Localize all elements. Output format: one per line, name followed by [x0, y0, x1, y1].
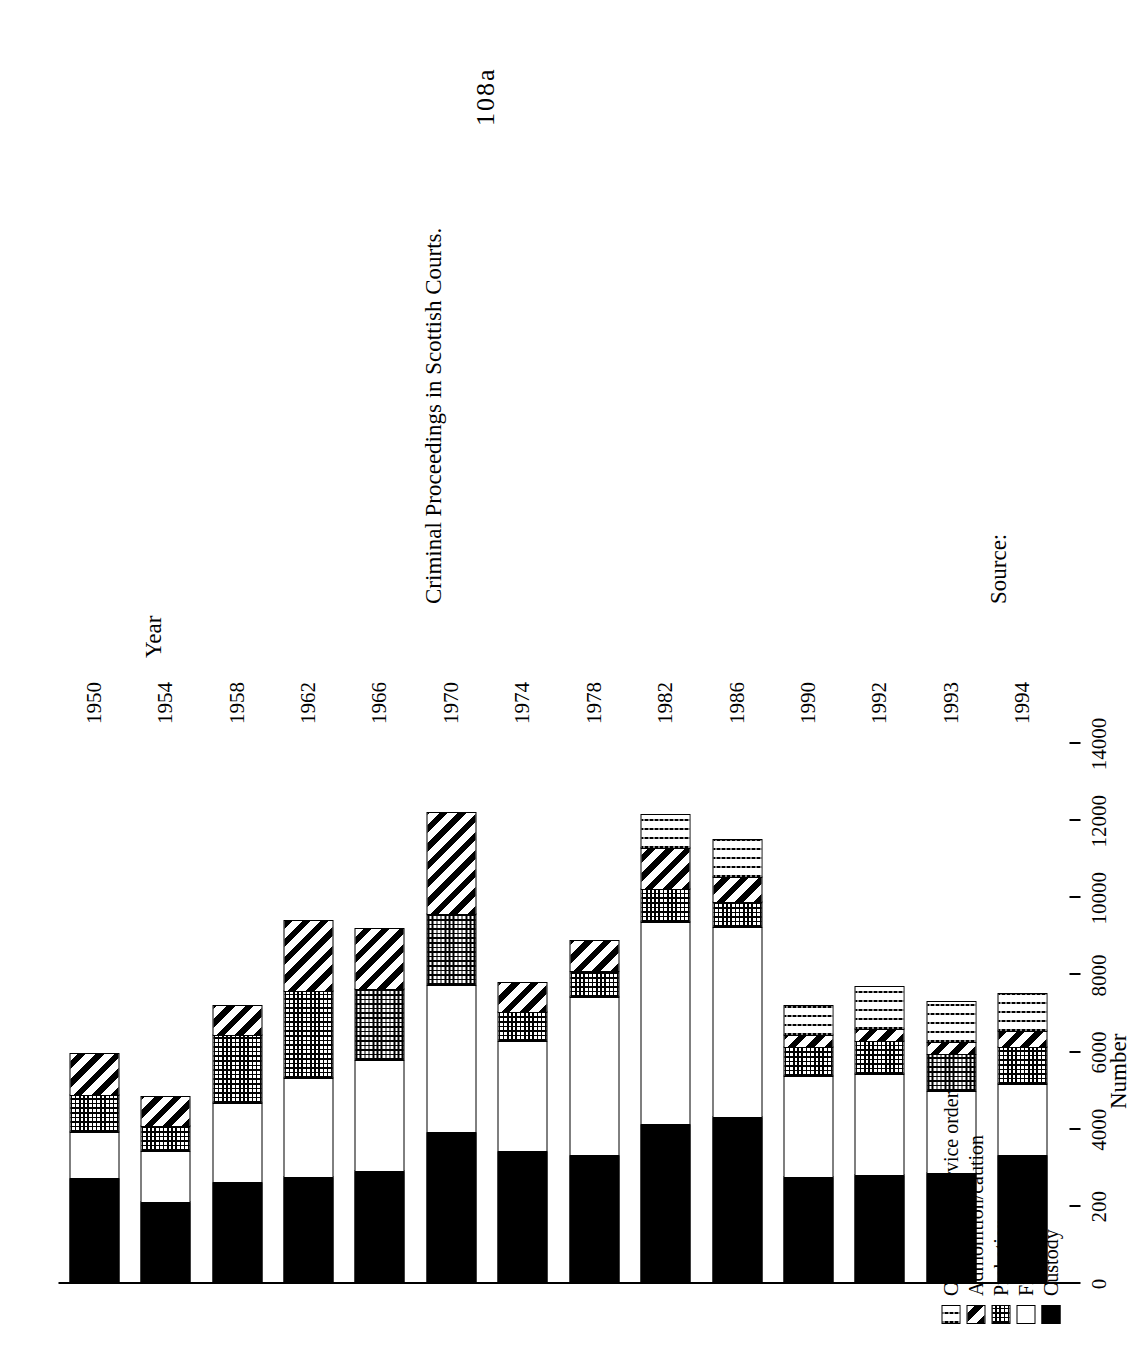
axis-tick — [1069, 742, 1080, 744]
bar-segment — [69, 1178, 119, 1282]
bar-stack — [712, 742, 762, 1282]
category-label-1993: 1993 — [940, 682, 961, 724]
bar-segment — [997, 1030, 1047, 1047]
bar-segment — [497, 1151, 547, 1282]
plot-area: 1400012000100008000600040002000 — [58, 744, 1058, 1284]
category-label-1966: 1966 — [368, 682, 389, 724]
bar-segment — [283, 920, 333, 991]
axis-tick-label: 4000 — [1088, 1102, 1109, 1158]
legend-item-label: Custody — [1040, 1229, 1060, 1296]
legend-item[interactable]: Fine — [1015, 1092, 1035, 1324]
bar-stack — [854, 742, 904, 1282]
axis-tick — [1069, 1128, 1080, 1130]
legend-item-label: Community service order — [940, 1092, 960, 1296]
category-label-1962: 1962 — [297, 682, 318, 724]
bar-segment — [712, 1116, 762, 1282]
bar-segment — [212, 1102, 262, 1183]
diagonal-stripe-swatch — [966, 1305, 985, 1324]
category-label-1982: 1982 — [654, 682, 675, 724]
bar-segment — [69, 1094, 119, 1133]
bar-segment — [354, 1060, 404, 1172]
bar-stack — [354, 742, 404, 1282]
bar-segment — [640, 888, 690, 923]
bar-stack — [640, 742, 690, 1282]
bar-segment — [426, 1132, 476, 1282]
bar-segment — [426, 913, 476, 986]
bar-segment — [712, 876, 762, 903]
source-label: Source: — [985, 534, 1011, 604]
bar-segment — [69, 1131, 119, 1179]
bar-stack — [497, 742, 547, 1282]
legend-item[interactable]: Community service order — [940, 1092, 960, 1324]
axis-tick — [1069, 1282, 1080, 1284]
bar-segment — [712, 927, 762, 1118]
bar-segment — [140, 1125, 190, 1152]
category-label-1992: 1992 — [868, 682, 889, 724]
category-label-1950: 1950 — [83, 682, 104, 724]
bar-segment — [140, 1151, 190, 1203]
bar-segment — [783, 1046, 833, 1077]
category-label-1994: 1994 — [1011, 682, 1032, 724]
bar-stack — [569, 742, 619, 1282]
bar-segment — [283, 990, 333, 1079]
bar-segment — [712, 901, 762, 928]
bar-segment — [926, 1001, 976, 1043]
axis-tick-label: 200 — [1088, 1179, 1109, 1235]
bar-stack — [283, 742, 333, 1282]
axis-tick-label: 10000 — [1088, 870, 1109, 926]
bar-segment — [69, 1053, 119, 1095]
value-axis-title: Number — [1105, 1034, 1131, 1109]
bar-segment — [783, 1176, 833, 1282]
bar-segment — [212, 1034, 262, 1103]
bar-segment — [140, 1201, 190, 1282]
bar-segment — [426, 812, 476, 914]
bar-segment — [854, 1073, 904, 1175]
bar-segment — [212, 1005, 262, 1036]
bar-segment — [783, 1005, 833, 1036]
bar-stack — [140, 742, 190, 1282]
axis-tick-label: 14000 — [1088, 716, 1109, 772]
bar-segment — [426, 985, 476, 1134]
bar-segment — [854, 1040, 904, 1075]
category-label-1958: 1958 — [226, 682, 247, 724]
bar-segment — [854, 1028, 904, 1042]
bar-segment — [569, 996, 619, 1156]
bar-segment — [783, 1034, 833, 1048]
bar-segment — [283, 1176, 333, 1282]
bar-segment — [140, 1096, 190, 1127]
legend-item[interactable]: Admonition/caution — [965, 1092, 985, 1324]
axis-tick — [1069, 819, 1080, 821]
wavy-lines-swatch — [941, 1305, 960, 1324]
legend-item-label: Fine — [1015, 1260, 1035, 1296]
page-number: 108a — [470, 67, 500, 126]
bar-segment — [783, 1075, 833, 1177]
bar-segment — [640, 921, 690, 1125]
legend-item[interactable]: Probation — [990, 1092, 1010, 1324]
axis-tick-label: 8000 — [1088, 947, 1109, 1003]
bar-segment — [640, 814, 690, 849]
bar-segment — [212, 1182, 262, 1282]
bar-segment — [497, 1011, 547, 1042]
bar-segment — [854, 986, 904, 1030]
bar-segment — [712, 839, 762, 878]
bar-segment — [926, 1042, 976, 1056]
category-label-1954: 1954 — [154, 682, 175, 724]
value-axis-line — [58, 1282, 1070, 1284]
bar-stack — [783, 742, 833, 1282]
bar-segment — [640, 847, 690, 889]
bar-segment — [497, 982, 547, 1013]
bar-segment — [997, 993, 1047, 1032]
bar-segment — [497, 1041, 547, 1153]
axis-tick-label: 0 — [1088, 1256, 1109, 1312]
bar-segment — [354, 988, 404, 1061]
bar-segment — [997, 1046, 1047, 1085]
legend-item[interactable]: Custody — [1040, 1092, 1060, 1324]
solid-black-swatch — [1041, 1305, 1060, 1324]
axis-tick — [1069, 896, 1080, 898]
category-axis-title: Year — [140, 616, 166, 658]
category-label-1986: 1986 — [726, 682, 747, 724]
bar-segment — [854, 1174, 904, 1282]
source-text: Criminal Proceedings in Scottish Courts. — [420, 228, 446, 604]
dotted-grid-swatch — [991, 1305, 1010, 1324]
